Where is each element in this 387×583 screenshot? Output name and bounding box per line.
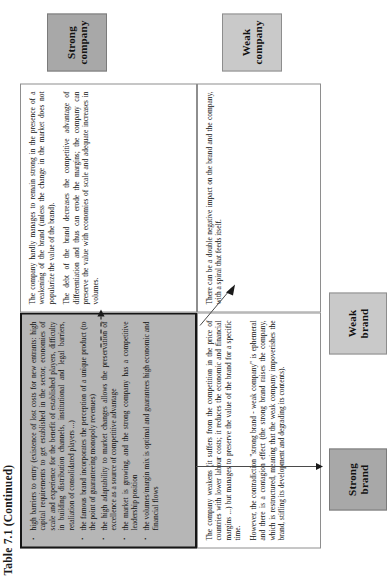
table-caption: Table 7.1 (Continued)	[2, 464, 14, 575]
cell-weak-brand-weak-company: There can be a double negative impact on…	[197, 83, 321, 312]
cell-strong-brand-strong-company: high barriers to entry (existence of los…	[20, 312, 197, 548]
column-header-weak-company: Weak company	[222, 13, 282, 71]
list-item: the volumes/margin mix is optimal and gu…	[142, 321, 161, 539]
row-header-line1: Strong	[346, 463, 358, 496]
row-header-weak-brand: Weak brand	[329, 292, 387, 354]
column-header-line2: company	[77, 20, 89, 64]
row-header-strong-brand: Strong brand	[329, 448, 387, 510]
paragraph: However, the contradiction "strong brand…	[249, 320, 287, 540]
column-header-line2: company	[252, 20, 264, 64]
vertical-arrow-icon	[196, 461, 324, 471]
paragraph: The debt of the brand decreases the comp…	[62, 91, 100, 304]
diagonal-arrow-icon	[200, 279, 240, 325]
row-header-line2: brand	[358, 308, 370, 338]
column-header-line1: Weak	[240, 28, 252, 56]
cell-weak-brand-strong-company: The company weakens (it suffers from the…	[197, 312, 321, 548]
cell-strong-brand-weak-company: The company hardly manages to remain str…	[20, 83, 197, 312]
column-header-strong-company: Strong company	[47, 13, 107, 71]
paragraph: There can be a double negative impact on…	[205, 91, 224, 304]
row-header-line1: Weak	[346, 309, 358, 337]
row-header-line2: brand	[358, 464, 370, 494]
paragraph: The company weakens (it suffers from the…	[205, 320, 243, 540]
list-item: the famous brand incorporates the percep…	[79, 321, 98, 539]
list-item: the market is growing, and the strong co…	[121, 321, 140, 539]
list-item: the high adaptability to market changes …	[100, 321, 119, 539]
dashed-arrow-icon	[96, 307, 106, 347]
list-item: high barriers to entry (existence of los…	[29, 321, 76, 539]
paragraph: The company hardly manages to remain str…	[28, 91, 56, 304]
bullet-list: high barriers to entry (existence of los…	[29, 321, 161, 539]
column-header-line1: Strong	[65, 26, 77, 59]
